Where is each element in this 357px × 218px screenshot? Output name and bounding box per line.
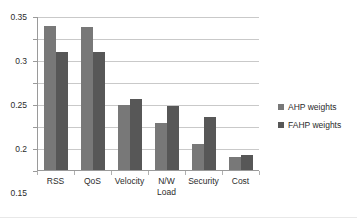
x-axis-category-label: Velocity <box>111 176 148 187</box>
y-axis-tick-label: 0.35 <box>10 13 27 22</box>
legend-item: AHP weights <box>278 103 341 112</box>
bar-group <box>222 17 259 170</box>
bar-group <box>185 17 222 170</box>
bar <box>204 117 216 170</box>
bar-chart: 00.050.10.150.20.250.30.35 RSSQoSVelocit… <box>0 0 357 218</box>
x-axis-category-label: RSS <box>37 176 74 187</box>
bar <box>56 52 68 170</box>
legend-label: FAHP weights <box>288 121 341 130</box>
legend-label: AHP weights <box>288 103 337 112</box>
bar <box>229 157 241 170</box>
x-axis-tick <box>185 171 186 175</box>
y-axis-tick-label: 0.25 <box>10 101 27 110</box>
y-axis-tick-label: 0.2 <box>15 145 27 154</box>
x-axis-tick <box>148 171 149 175</box>
x-axis-category-label: Security <box>185 176 222 187</box>
bar <box>118 105 130 170</box>
chart-legend: AHP weightsFAHP weights <box>278 103 341 129</box>
x-axis-category-label: N/W Load <box>148 176 185 198</box>
bar <box>167 106 179 170</box>
bar-group <box>74 17 111 170</box>
legend-item: FAHP weights <box>278 121 341 130</box>
y-axis-tick-label: 0.3 <box>15 57 27 66</box>
bar-group <box>148 17 185 170</box>
bar <box>130 99 142 170</box>
x-axis-tick <box>37 171 38 175</box>
plot-area: 00.050.10.150.20.250.30.35 <box>37 17 259 171</box>
x-axis-tick <box>259 171 260 175</box>
x-axis-tick <box>74 171 75 175</box>
x-axis-tick <box>222 171 223 175</box>
legend-swatch-icon <box>278 122 284 128</box>
bar <box>192 144 204 170</box>
bar <box>44 26 56 170</box>
bar-group <box>111 17 148 170</box>
x-axis-category-label: QoS <box>74 176 111 187</box>
bar <box>93 52 105 170</box>
y-axis-tick-label: 0.15 <box>10 189 27 198</box>
bar <box>155 123 167 170</box>
bar <box>241 155 253 170</box>
x-axis-tick <box>111 171 112 175</box>
x-axis-category-label: Cost <box>222 176 259 187</box>
legend-swatch-icon <box>278 104 284 110</box>
bar-group <box>37 17 74 170</box>
bar <box>81 27 93 170</box>
